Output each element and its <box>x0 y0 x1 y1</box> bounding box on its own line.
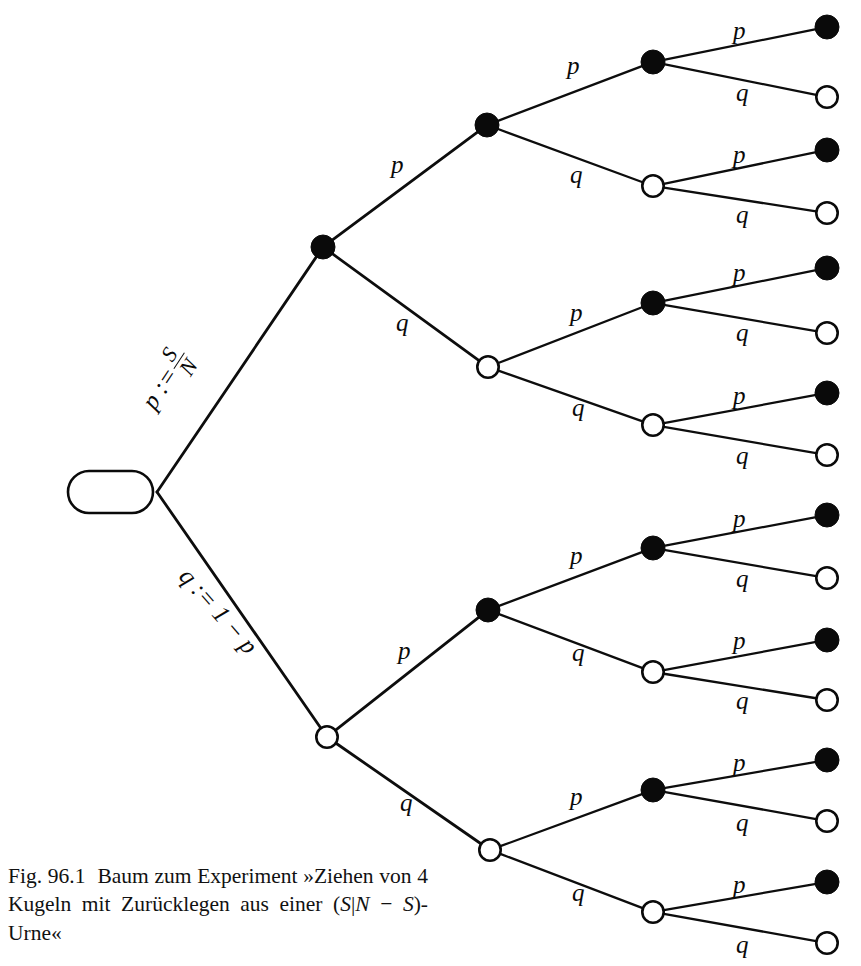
tree-node-filled <box>311 235 335 259</box>
tree-node-filled <box>475 113 499 137</box>
edge-label-q: q <box>396 310 409 335</box>
tree-node-filled <box>641 536 665 560</box>
edge-label-p: p <box>570 300 583 325</box>
tree-node-open <box>479 839 500 860</box>
figure-number: Fig. 96.1 <box>8 864 85 888</box>
tree-node-open <box>477 356 498 377</box>
edge-label-q: q <box>736 443 749 468</box>
tree-node-filled <box>815 870 839 894</box>
edge-label-p: p <box>570 784 583 809</box>
edge-label-p: p <box>570 543 583 568</box>
tree-edge <box>498 371 642 422</box>
tree-node-filled <box>641 291 665 315</box>
start-node-group <box>68 471 153 513</box>
tree-node-open <box>816 202 837 223</box>
tree-node-filled <box>815 381 839 405</box>
edge-label-q: q <box>736 932 749 957</box>
tree-node-open <box>816 86 837 107</box>
edge-label-p: p <box>398 638 411 663</box>
tree-node-open <box>816 322 837 343</box>
edge-label-p: p <box>733 872 746 897</box>
figure-page: pqpqpqpqpqpqpqpqpqpqpqpqpqpq p :=SN q :=… <box>0 0 861 966</box>
tree-node-open <box>816 810 837 831</box>
edge-label-p: p <box>733 383 746 408</box>
edge-label-p: p <box>733 750 746 775</box>
probability-tree-canvas <box>0 0 861 966</box>
edge-label-q: q <box>736 80 749 105</box>
edge-label-q: q <box>736 320 749 345</box>
tree-node-open <box>642 414 663 435</box>
tree-node-open <box>316 726 337 747</box>
tree-node-filled <box>815 503 839 527</box>
tree-node-filled <box>815 256 839 280</box>
tree-node-filled <box>815 628 839 652</box>
tree-node-open <box>642 901 663 922</box>
tree-edge <box>336 617 480 730</box>
edge-label-p: p <box>733 260 746 285</box>
tree-node-open <box>816 932 837 953</box>
edge-label-q: q <box>736 810 749 835</box>
caption-math-n: N <box>355 892 369 916</box>
tree-edges <box>157 29 816 941</box>
tree-node-filled <box>641 778 665 802</box>
tree-edge <box>332 253 479 360</box>
tree-node-open <box>816 689 837 710</box>
edge-label-q: q <box>572 640 585 665</box>
tree-node-open <box>642 175 663 196</box>
tree-node-filled <box>815 138 839 162</box>
edge-label-q: q <box>736 688 749 713</box>
edge-label-p: p <box>733 628 746 653</box>
start-node-box <box>68 471 153 513</box>
tree-node-open <box>816 444 837 465</box>
tree-node-filled <box>815 15 839 39</box>
edge-label-q: q <box>736 202 749 227</box>
edge-label-q: q <box>736 566 749 591</box>
edge-label-q: q <box>572 880 585 905</box>
tree-edge <box>332 132 478 241</box>
edge-label-q: q <box>400 790 413 815</box>
tree-node-filled <box>476 598 500 622</box>
tree-node-open <box>816 567 837 588</box>
edge-label-q: q <box>570 162 583 187</box>
caption-math-s2: S <box>403 892 414 916</box>
tree-edge <box>157 492 321 728</box>
caption-math-s1: S <box>340 892 351 916</box>
edge-label-p: p <box>733 506 746 531</box>
edge-label-p: p <box>733 18 746 43</box>
edge-label-p: p <box>567 53 580 78</box>
figure-caption: Fig. 96.1Baum zum Experiment »Ziehen von… <box>8 862 428 947</box>
caption-minus: − <box>370 892 403 916</box>
tree-node-filled <box>641 50 665 74</box>
tree-node-filled <box>815 748 839 772</box>
edge-label-p: p <box>733 142 746 167</box>
edge-label-p: p <box>391 152 404 177</box>
edge-label-q: q <box>572 395 585 420</box>
tree-node-open <box>642 661 663 682</box>
tree-edge <box>498 614 642 668</box>
